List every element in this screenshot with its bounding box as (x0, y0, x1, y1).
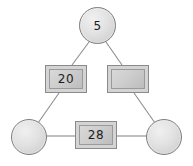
node-top-circle-label: 5 (93, 20, 101, 32)
node-bottom-left-circle[interactable] (11, 119, 47, 155)
node-top-circle[interactable]: 5 (79, 7, 116, 44)
node-bottom-rect[interactable]: 28 (75, 121, 117, 149)
node-right-rect-inner (111, 69, 145, 89)
edge-top-to-left-rect (72, 42, 89, 65)
node-left-rect-inner: 20 (49, 69, 83, 89)
edge-right-rect-to-bottom-right-circle (134, 93, 155, 123)
node-bottom-rect-label: 28 (88, 129, 104, 141)
edge-left-rect-to-bottom-left-circle (38, 93, 59, 123)
edge-top-to-right-rect (106, 42, 122, 65)
node-left-rect-label: 20 (58, 73, 74, 85)
node-bottom-right-circle[interactable] (146, 119, 182, 155)
node-bottom-rect-inner: 28 (79, 125, 113, 145)
node-left-rect[interactable]: 20 (45, 65, 87, 93)
diagram-canvas: 5 20 28 (0, 0, 193, 166)
node-right-rect[interactable] (107, 65, 149, 93)
